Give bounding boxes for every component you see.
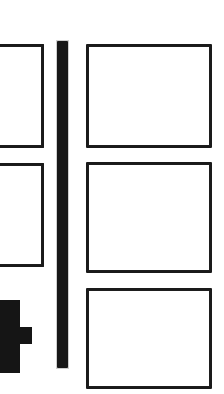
- right-panel-2[interactable]: [86, 162, 212, 273]
- left-panel-2[interactable]: [0, 163, 44, 267]
- right-panel-3[interactable]: [86, 288, 212, 389]
- right-panel-3-label: [88, 290, 89, 291]
- diagram-canvas: Panel Layout Diagram: [0, 0, 224, 394]
- vertical-divider-bar: [57, 41, 68, 368]
- right-panel-2-label: [88, 164, 89, 165]
- right-panel-1-label: [88, 46, 89, 47]
- plus-cross-arm: [0, 327, 32, 344]
- left-panel-1[interactable]: [0, 44, 44, 148]
- right-panel-1[interactable]: [86, 44, 212, 148]
